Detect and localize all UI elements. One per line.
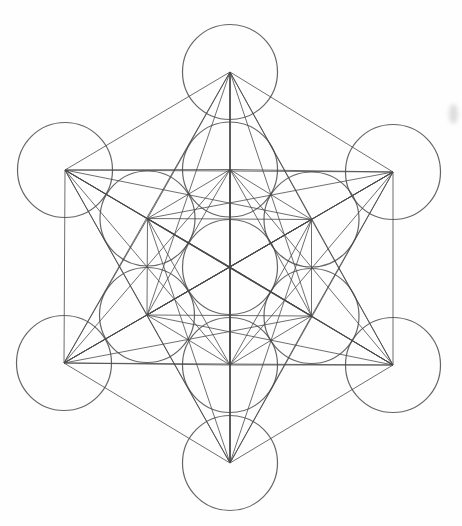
connector-outer-lower-right--outer-upper-left [65,170,393,365]
connector-outer-lower-right--outer-bottom [230,365,393,463]
metatrons-cube-svg [0,0,462,526]
connector-outer-top--outer-upper-right [230,72,393,172]
connector-outer-bottom--outer-lower-left [64,363,230,463]
connector-inner-lower-right--inner-lower-left [147,315,312,316]
connector-lines [64,72,393,463]
connector-outer-top--outer-upper-left [65,72,230,170]
connector-outer-top--outer-lower-left [64,72,230,363]
connector-inner-lower-left--inner-upper-left [147,219,148,316]
page-canvas [0,0,462,526]
connector-outer-upper-right--outer-bottom [230,172,393,463]
connector-outer-bottom--outer-upper-left [65,170,230,463]
connector-outer-lower-left--outer-upper-left [64,170,65,363]
scan-smudge-artifact [449,104,458,124]
